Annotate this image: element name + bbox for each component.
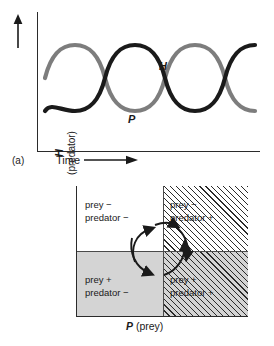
cycle-arrow-1 bbox=[133, 229, 150, 262]
panel-b-plot-area: prey − predator − prey − predator + prey… bbox=[76, 186, 248, 317]
cycle-arrow-4 bbox=[175, 226, 188, 256]
arrow-right-icon bbox=[84, 155, 138, 165]
x-axis-symbol-P: P bbox=[126, 320, 133, 332]
quadrant-label-top-left-line2: predator − bbox=[85, 211, 129, 224]
x-axis-name-prey: (prey) bbox=[136, 320, 163, 332]
quadrant-label-top-left-line1: prey − bbox=[85, 198, 129, 211]
quadrant-label-bottom-left-line2: predator − bbox=[85, 286, 129, 299]
cycle-arrow-3 bbox=[164, 245, 185, 275]
panel-b-phase-plane: prey − predator − prey − predator + prey… bbox=[0, 176, 274, 346]
curve-label-P: P bbox=[128, 113, 135, 125]
x-axis-label-prey: P (prey) bbox=[126, 320, 163, 332]
panel-a-tag: (a) bbox=[12, 155, 24, 166]
quadrant-label-bottom-left-line1: prey + bbox=[85, 273, 129, 286]
quadrant-label-top-right-line1: prey − bbox=[170, 198, 214, 211]
curve-label-H: H bbox=[159, 60, 167, 72]
quadrant-label-top-left: prey − predator − bbox=[85, 198, 129, 224]
y-axis-label-predator: H (predator) bbox=[52, 100, 78, 206]
arrow-up-icon bbox=[12, 14, 24, 48]
y-axis-symbol-H: H bbox=[53, 149, 65, 157]
cycle-arrows-icon bbox=[125, 218, 201, 286]
y-axis-name-predator: (predator) bbox=[65, 131, 78, 175]
cycle-arrow-5 bbox=[155, 223, 175, 225]
quadrant-label-bottom-right-line2: predator + bbox=[170, 286, 214, 299]
quadrant-label-bottom-left: prey + predator − bbox=[85, 273, 129, 299]
panel-a-population-vs-time: H P Population Time (a) bbox=[0, 0, 274, 176]
